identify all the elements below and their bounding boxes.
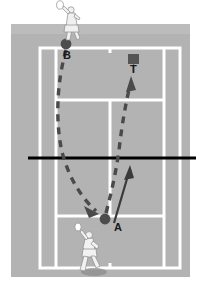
player-b-racket [57,1,64,9]
tennis-court-diagram: B A T [0,0,209,284]
label-player-b: B [63,50,71,61]
player-b-shorts [64,25,79,32]
label-target-t: T [130,64,137,75]
court-graphic [0,0,209,284]
player-a-racket [75,223,81,231]
label-player-a: A [114,222,122,233]
ball-marker-a [100,214,111,225]
court-surface-highlight [11,24,190,34]
